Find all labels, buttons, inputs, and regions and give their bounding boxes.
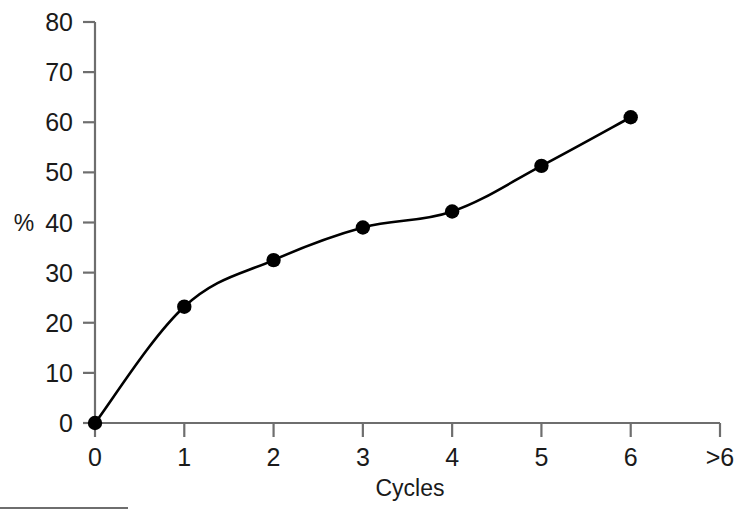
y-tick-label: 40: [45, 209, 73, 237]
x-tick-label: 4: [445, 443, 459, 471]
x-tick-label: 6: [624, 443, 638, 471]
y-tick-label: 0: [59, 409, 73, 437]
data-point-marker: [445, 204, 459, 218]
x-tick-label-group: 0123456>6: [88, 443, 734, 471]
y-tick-label: 50: [45, 158, 73, 186]
y-tick-label: 20: [45, 309, 73, 337]
data-line-series-1: [95, 117, 631, 423]
x-tick-group: [95, 423, 720, 437]
x-tick-label: 1: [177, 443, 191, 471]
y-tick-label-group: 80706050403020100: [45, 8, 73, 437]
x-tick-label: 2: [267, 443, 281, 471]
chart-figure: 80706050403020100 0123456>6 % Cycles: [0, 0, 739, 516]
x-axis: 0123456>6: [88, 423, 734, 471]
data-point-marker: [266, 253, 280, 267]
data-point-marker: [624, 110, 638, 124]
y-axis-title: %: [14, 210, 34, 236]
x-tick-label: 3: [356, 443, 370, 471]
data-point-marker: [88, 416, 102, 430]
y-tick-group: [83, 22, 95, 423]
x-tick-label: 5: [534, 443, 548, 471]
y-tick-label: 60: [45, 108, 73, 136]
data-point-marker: [356, 220, 370, 234]
y-tick-label: 80: [45, 8, 73, 36]
y-tick-label: 70: [45, 58, 73, 86]
x-tick-label: 0: [88, 443, 102, 471]
data-point-marker: [177, 300, 191, 314]
data-point-marker: [534, 159, 548, 173]
chart-canvas: 80706050403020100 0123456>6 % Cycles: [0, 0, 739, 516]
x-axis-title: Cycles: [375, 475, 444, 501]
y-axis: 80706050403020100: [45, 8, 95, 437]
y-tick-label: 10: [45, 359, 73, 387]
x-tick-label: >6: [706, 443, 735, 471]
y-tick-label: 30: [45, 259, 73, 287]
